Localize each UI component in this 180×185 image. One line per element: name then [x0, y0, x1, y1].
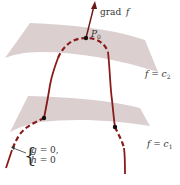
constraint-label-line2: h = 0: [31, 155, 56, 165]
lower-level-surface: [10, 96, 150, 132]
grad-f-label: grad f: [100, 7, 131, 17]
lower-surface-label: f = c1: [146, 139, 172, 150]
gradient-arrowhead-icon: [91, 1, 97, 9]
constraint-curve-right-bottom: [124, 148, 125, 174]
upper-level-surface: [5, 23, 158, 72]
constraint-curve-left-bottom: [6, 150, 12, 168]
constraint-pointer-arrowhead-icon: [11, 146, 15, 150]
level-surfaces-diagram: grad f P0 f = c2 f = c1 { g = 0, h = 0: [0, 0, 180, 185]
lower-intersection-right: [113, 125, 117, 129]
constraint-curve-right-dashed: [115, 127, 124, 148]
point-p0: [84, 36, 88, 40]
lower-intersection-left: [42, 116, 46, 120]
upper-surface-label: f = c2: [144, 69, 171, 80]
constraint-label-line1: g = 0,: [31, 145, 59, 155]
